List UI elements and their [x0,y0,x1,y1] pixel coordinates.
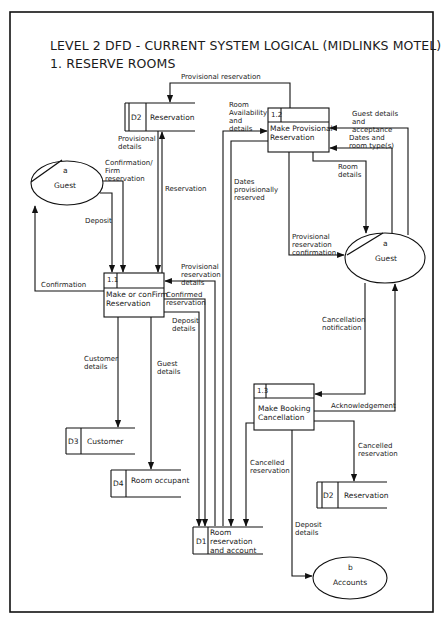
accounts-label: Accounts [333,578,367,587]
guest-right-code: a [383,239,388,248]
process-1-2-id: 1.2 [271,111,282,120]
process-1-1-id: 1.1 [107,276,118,285]
flow-label-guest-details: Guest details [157,360,180,376]
flow-label-provisional-reservation-confirmation: Provisional reservation confirmation [292,233,336,257]
flow-label-deposit-details-2: Deposit details [295,521,322,537]
flow-label-reservation: Reservation [165,185,207,193]
flow-label-confirmation-firm: Confirmation/ Firm reservation [105,159,153,183]
flow-label-confirmed-reservation: Confirmed reservation [166,291,206,307]
store-d4-label: Room occupant [131,476,189,485]
flow-label-provisional-details: Provisional details [118,135,156,151]
flow-label-room-details: Room details [338,163,361,179]
process-1-1-label: Make or conFirm Reservation [106,290,168,308]
guest-right-label: Guest [375,254,397,263]
store-d4-id: D4 [113,479,124,488]
flow-label-cancelled-reservation-right: Cancelled reservation [358,442,398,458]
store-d3-id: D3 [68,437,79,446]
flow-label-provisional-reservation-details: Provisional reservation details [181,263,221,287]
flow-label-guest-details-acceptance: Guest details and acceptance [352,110,398,134]
flow-label-cancelled-reservation-left: Cancelled reservation [250,459,290,475]
flow-label-acknowledgement: Acknowledgement [331,402,396,410]
page-border [10,12,433,612]
store-d1-id: D1 [196,537,207,546]
store-d2-top-label: Reservation [150,113,195,122]
flow-label-dates-room-types: Dates and room type(s) [349,134,394,150]
process-1-3-label: Make Booking Cancellation [258,404,310,422]
flow-label-customer-details: Customer details [84,355,118,371]
guest-left-label: Guest [54,181,76,190]
process-1-3-id: 1.3 [257,387,268,396]
store-d2-top-id: D2 [131,113,142,122]
diagram-title: LEVEL 2 DFD - CURRENT SYSTEM LOGICAL (MI… [50,38,441,53]
accounts-code: b [348,563,353,572]
flow-label-cancellation-notification: Cancellation notification [322,316,365,332]
dfd-diagram: LEVEL 2 DFD - CURRENT SYSTEM LOGICAL (MI… [0,0,443,623]
flow-label-confirmation: Confirmation [41,281,86,289]
flow-label-deposit: Deposit [85,217,112,225]
flow-label-dates-provisionally-reserved: Dates provisionally reserved [234,178,278,202]
store-d1-label: Room reservation and account [210,528,256,555]
flow-label-provisional-reservation: Provisional reservation [181,73,261,81]
store-d2-bottom-label: Reservation [344,491,389,500]
guest-left-code: a [63,166,68,175]
process-1-2-label: Make Provisional Reservation [270,124,333,142]
store-d3-label: Customer [87,437,123,446]
store-d2-bottom-id: D2 [323,491,334,500]
diagram-subtitle: 1. RESERVE ROOMS [50,56,175,71]
flow-label-deposit-details-1: Deposit details [172,317,199,333]
flow-label-room-availability: Room Availability and details [229,101,267,133]
